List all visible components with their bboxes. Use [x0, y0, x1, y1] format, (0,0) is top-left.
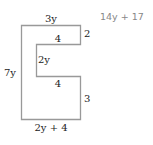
label-top-right: 2 [84, 28, 90, 39]
label-top: 3y [45, 13, 57, 24]
label-lower-inner: 4 [55, 78, 61, 89]
label-bottom: 2y + 4 [34, 122, 67, 133]
label-upper-inner: 4 [55, 33, 61, 44]
label-inner-vertical: 2y [38, 54, 50, 65]
perimeter-diagram: 3y 2 4 2y 4 3 7y 2y + 4 14y + 17 [0, 0, 153, 145]
answer-expression: 14y + 17 [100, 11, 144, 22]
label-lower-right: 3 [84, 93, 90, 104]
label-left: 7y [4, 67, 16, 78]
shape-outline [22, 26, 81, 120]
